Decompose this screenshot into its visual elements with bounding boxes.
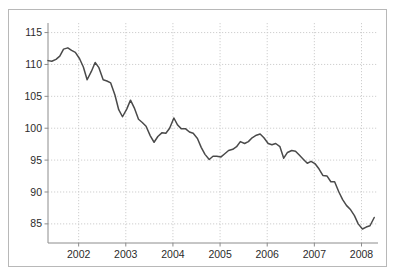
y-tick-label: 105 — [24, 90, 42, 102]
y-tick-label: 95 — [30, 154, 42, 166]
x-tick-label: 2004 — [161, 248, 185, 260]
data-series-line — [48, 48, 374, 229]
x-tick-label: 2008 — [350, 248, 374, 260]
y-tick-label: 110 — [25, 58, 42, 70]
x-tick-label: 2007 — [303, 248, 327, 260]
y-tick-label: 100 — [24, 122, 42, 134]
x-tick-label: 2003 — [114, 248, 138, 260]
x-tick-label: 2005 — [208, 248, 232, 260]
y-tick-label: 115 — [25, 26, 42, 38]
x-tick-label: 2006 — [256, 248, 280, 260]
y-tick-label: 90 — [30, 186, 42, 198]
chart-figure: 8590951001051101152002200320042005200620… — [0, 0, 396, 276]
y-tick-label: 85 — [30, 217, 42, 229]
x-tick-label: 2002 — [67, 248, 91, 260]
line-chart-plot: 8590951001051101152002200320042005200620… — [0, 0, 396, 276]
